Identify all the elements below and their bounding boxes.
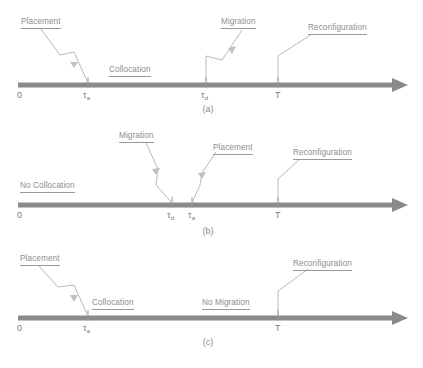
placement-leader-line-b	[192, 152, 216, 203]
tick-label-T: T	[275, 210, 281, 220]
no-collocation-label: No Collocation	[20, 181, 75, 193]
timeline-axis-b	[18, 198, 408, 212]
placement-leader-line-a	[40, 28, 88, 83]
panel-caption-b: (b)	[196, 226, 220, 237]
placement-leader-line-c	[38, 265, 88, 316]
collocation-label: Collocation	[92, 298, 134, 310]
panel-b: Migration Placement Reconfiguration No C…	[0, 123, 423, 245]
tau-subscript: a	[87, 328, 90, 334]
panel-caption-a: (a)	[196, 104, 220, 115]
no-migration-label: No Migration	[202, 298, 250, 310]
panel-caption-c: (c)	[196, 337, 220, 348]
migration-leader-line-a	[206, 30, 242, 83]
tau-subscript: a	[192, 215, 195, 221]
panel-a: Placement Migration Reconfiguration Coll…	[0, 0, 423, 123]
placement-label: Placement	[21, 17, 61, 29]
collocation-label: Collocation	[109, 65, 151, 77]
migration-leader-line-b	[146, 143, 172, 203]
migration-label: Migration	[119, 131, 154, 143]
reconfiguration-label: Reconfiguration	[308, 23, 367, 35]
tau-subscript: d	[205, 95, 208, 101]
timeline-axis-c	[18, 311, 408, 325]
placement-label: Placement	[20, 254, 60, 266]
origin-label-c: 0	[17, 323, 22, 333]
figure-canvas: Placement Migration Reconfiguration Coll…	[0, 0, 423, 368]
tick-label-tau-d: τd	[167, 210, 174, 221]
reconfiguration-label: Reconfiguration	[293, 259, 352, 271]
placement-label: Placement	[213, 143, 253, 155]
panel-c: Placement Reconfiguration Collocation No…	[0, 245, 423, 368]
tau-subscript: a	[87, 95, 90, 101]
tick-label-T: T	[275, 90, 281, 100]
tau-subscript: d	[171, 215, 174, 221]
origin-label-b: 0	[17, 210, 22, 220]
reconfiguration-leader-line-b	[278, 159, 300, 203]
reconfiguration-leader-line-c	[278, 269, 308, 316]
origin-label-a: 0	[17, 90, 22, 100]
reconfiguration-leader-line-a	[278, 34, 312, 83]
timeline-axis-a	[18, 78, 408, 92]
tick-label-tau-a: τa	[188, 210, 195, 221]
reconfiguration-label: Reconfiguration	[293, 148, 352, 160]
tick-label-tau-a: τa	[83, 323, 90, 334]
tick-label-T: T	[275, 323, 281, 333]
migration-label: Migration	[221, 17, 256, 29]
tick-label-tau-a: τa	[83, 90, 90, 101]
tick-label-tau-d: τd	[201, 90, 208, 101]
